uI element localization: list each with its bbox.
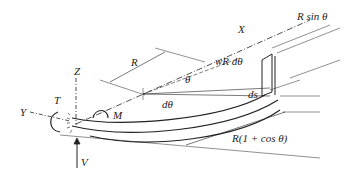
- x-axis-label: X: [237, 23, 246, 35]
- torque-label: T: [54, 94, 61, 106]
- y-axis-label: Y: [20, 106, 28, 118]
- radius-label: R: [130, 56, 138, 68]
- r-one-plus-cos-label: R(1 + cos θ): [231, 132, 288, 145]
- dtheta-label: dθ: [162, 98, 174, 110]
- ds-label: ds: [248, 88, 258, 100]
- y-axis: [30, 112, 70, 121]
- theta-label: θ: [185, 73, 191, 85]
- load-label: wR dθ: [215, 55, 243, 67]
- beam-diagram: Z Y X T M V R θ dθ wR dθ ds R sin θ R(1 …: [0, 0, 351, 179]
- r-sin-theta-label: R sin θ: [296, 10, 328, 22]
- shear-label: V: [81, 156, 89, 168]
- moment-label: M: [112, 109, 123, 121]
- z-axis-label: Z: [74, 65, 81, 77]
